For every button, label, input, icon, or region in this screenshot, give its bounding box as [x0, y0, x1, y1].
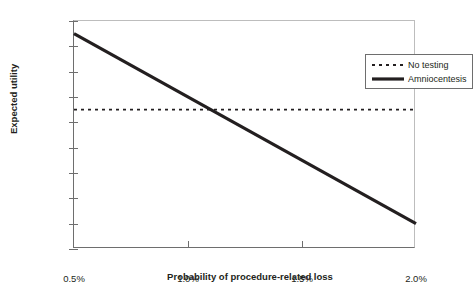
legend-label-amniocentesis: Amniocentesis — [408, 74, 467, 84]
chart-legend: No testing Amniocentesis — [365, 54, 473, 89]
x-tick-label: 2.0% — [405, 273, 427, 284]
legend-swatch-solid-line-icon — [371, 74, 404, 84]
x-tick-label: 1.0% — [177, 273, 199, 284]
legend-swatch-dashed-line-icon — [371, 60, 404, 70]
legend-item-amniocentesis: Amniocentesis — [371, 72, 472, 86]
legend-item-no-testing: No testing — [371, 58, 472, 72]
plot-area: 97.297.497.697.898.098.298.498.698.899.0… — [73, 20, 415, 248]
x-tick-label: 1.5% — [291, 273, 313, 284]
legend-label-no-testing: No testing — [408, 60, 449, 70]
y-tick-mark-inner — [74, 249, 78, 250]
y-axis-title: Expected utility — [8, 64, 19, 134]
x-tick-label: 0.5% — [63, 273, 85, 284]
